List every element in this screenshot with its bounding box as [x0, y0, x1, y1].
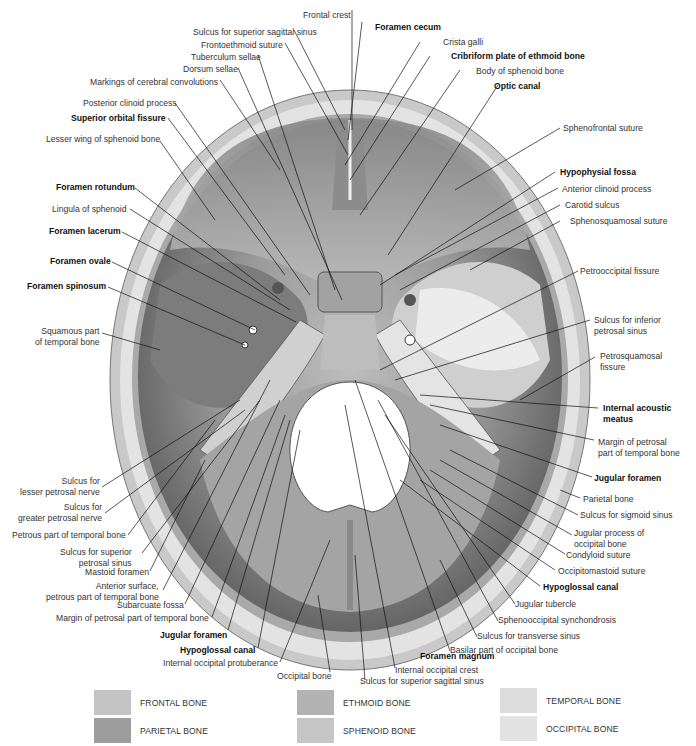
- legend-swatch-ethmoid: [297, 690, 334, 715]
- legend-label-frontal: FRONTAL BONE: [140, 698, 207, 708]
- label-sulcus-lesser-petrosal: Sulcus for lesser petrosal nerve: [20, 476, 100, 497]
- label-foramen-cecum: Foramen cecum: [375, 22, 441, 33]
- legend-item-occipital: OCCIPITAL BONE: [500, 716, 619, 741]
- label-jugular-foramen-right: Jugular foramen: [594, 473, 661, 484]
- label-internal-occipital-protuberance: Internal occipital protuberance: [163, 658, 278, 669]
- label-posterior-clinoid: Posterior clinoid process: [83, 98, 177, 109]
- label-sulcus-superior-sagittal-bottom: Sulcus for superior sagittal sinus: [360, 676, 484, 687]
- label-petrooccipital-fissure: Petrooccipital fissure: [580, 266, 659, 277]
- foramen-ovale-right: [405, 335, 415, 345]
- label-foramen-ovale: Foramen ovale: [50, 256, 111, 267]
- label-anterior-surface: Anterior surface, petrous part of tempor…: [46, 581, 159, 602]
- label-sphenooccipital-synchondrosis: Sphenooccipital synchondrosis: [498, 615, 616, 626]
- legend-swatch-occipital: [500, 716, 537, 741]
- label-condyloid-suture: Condyloid suture: [566, 550, 631, 561]
- legend-label-parietal: PARIETAL BONE: [140, 726, 208, 736]
- label-occipitomastoid-suture: Occipitomastoid suture: [558, 566, 645, 577]
- label-frontoethmoid-suture: Frontoethmoid suture: [201, 40, 283, 51]
- label-markings-cerebral-convolutions: Markings of cerebral convolutions: [90, 77, 218, 88]
- label-anterior-clinoid: Anterior clinoid process: [562, 184, 651, 195]
- label-optic-canal: Optic canal: [494, 81, 540, 92]
- legend-label-occipital: OCCIPITAL BONE: [546, 724, 619, 734]
- label-hypophysial-fossa: Hypophysial fossa: [560, 167, 636, 178]
- label-lesser-wing: Lesser wing of sphenoid bone: [46, 134, 160, 145]
- label-lingula: Lingula of sphenoid: [52, 204, 127, 215]
- label-dorsum-sellae: Dorsum sellae: [183, 64, 238, 75]
- label-petrous-part: Petrous part of temporal bone: [12, 530, 126, 541]
- label-superior-orbital-fissure: Superior orbital fissure: [71, 113, 166, 124]
- label-subarcuate-fossa: Subarcuate fossa: [117, 600, 184, 611]
- legend-item-temporal: TEMPORAL BONE: [500, 688, 621, 713]
- label-jugular-process: Jugular process of occipital bone: [574, 528, 644, 549]
- legend-swatch-parietal: [94, 718, 131, 743]
- label-parietal-bone: Parietal bone: [583, 494, 634, 505]
- label-sulcus-superior-petrosal: Sulcus for superior petrosal sinus: [60, 547, 132, 568]
- label-internal-occipital-crest: Internal occipital crest: [395, 665, 478, 676]
- label-petrosquamosal-fissure: Petrosquamosal fissure: [600, 351, 662, 372]
- legend-item-parietal: PARIETAL BONE: [94, 718, 208, 743]
- label-jugular-tubercle: Jugular tubercle: [515, 599, 576, 610]
- label-sulcus-inferior-petrosal: Sulcus for inferior petrosal sinus: [594, 315, 661, 336]
- label-squamous-part: Squamous part of temporal bone: [35, 326, 100, 347]
- label-jugular-foramen-left: Jugular foramen: [160, 630, 227, 641]
- cranial-base-diagram: Frontal crest Sulcus for superior sagitt…: [0, 0, 696, 746]
- label-sulcus-transverse: Sulcus for transverse sinus: [477, 631, 580, 642]
- label-foramen-rotundum: Foramen rotundum: [56, 182, 135, 193]
- legend-item-frontal: FRONTAL BONE: [94, 690, 207, 715]
- foramen-ovale-left: [249, 326, 257, 334]
- legend-swatch-sphenoid: [297, 718, 334, 743]
- label-sulcus-greater-petrosal: Sulcus for greater petrosal nerve: [18, 502, 102, 523]
- label-frontal-crest: Frontal crest: [303, 10, 351, 21]
- label-internal-acoustic-meatus: Internal acoustic meatus: [603, 403, 671, 424]
- label-sulcus-superior-sagittal-sinus: Sulcus for superior sagittal sinus: [193, 27, 317, 38]
- legend-item-ethmoid: ETHMOID BONE: [297, 690, 411, 715]
- label-cribriform-plate: Cribriform plate of ethmoid bone: [451, 51, 585, 62]
- label-margin-petrosal-left: Margin of petrosal part of temporal bone: [56, 613, 209, 624]
- clivus: [320, 315, 380, 370]
- label-carotid-sulcus: Carotid sulcus: [565, 200, 619, 211]
- skull-illustration: [0, 0, 696, 746]
- legend-label-sphenoid: SPHENOID BONE: [343, 726, 416, 736]
- label-foramen-lacerum: Foramen lacerum: [49, 226, 121, 237]
- label-foramen-spinosum: Foramen spinosum: [27, 281, 106, 292]
- label-mastoid-foramen: Mastoid foramen: [85, 567, 149, 578]
- foramen-magnum-opening: [290, 382, 410, 512]
- legend-label-temporal: TEMPORAL BONE: [546, 696, 621, 706]
- label-occipital-bone: Occipital bone: [277, 671, 331, 682]
- label-foramen-magnum: Foramen magnum: [420, 651, 495, 662]
- label-hypoglossal-canal-right: Hypoglossal canal: [543, 582, 618, 593]
- legend-label-ethmoid: ETHMOID BONE: [343, 698, 411, 708]
- legend-swatch-temporal: [500, 688, 537, 713]
- sella-turcica: [318, 272, 382, 312]
- label-sphenosquamosal-suture: Sphenosquamosal suture: [570, 216, 667, 227]
- label-sulcus-sigmoid: Sulcus for sigmoid sinus: [580, 510, 673, 521]
- label-crista-galli: Crista galli: [443, 37, 483, 48]
- legend-item-sphenoid: SPHENOID BONE: [297, 718, 416, 743]
- label-hypoglossal-canal-left: Hypoglossal canal: [180, 645, 255, 656]
- label-sphenofrontal-suture: Sphenofrontal suture: [563, 123, 643, 134]
- label-tuberculum-sellae: Tuberculum sellae: [191, 52, 261, 63]
- label-margin-petrosal-right: Margin of petrosal part of temporal bone: [598, 437, 680, 458]
- label-body-of-sphenoid: Body of sphenoid bone: [476, 66, 564, 77]
- legend-swatch-frontal: [94, 690, 131, 715]
